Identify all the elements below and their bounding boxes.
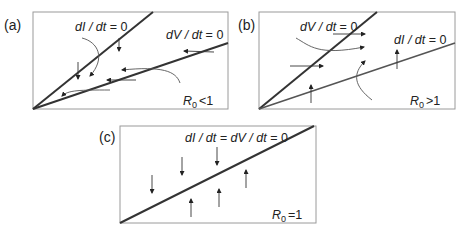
panel-a-condition: R0<1 [183,94,213,110]
phase-plane-figure: (a) dI / dt = 0 dV / dt = 0 R0<1 (b) dV … [0,0,463,239]
panel-b-label: (b) [238,17,255,33]
panel-a: (a) dI / dt = 0 dV / dt = 0 R0<1 [4,12,228,110]
panel-c: (c) dI / dt = dV / dt = 0 R0=1 [99,126,316,224]
panel-b: (b) dV / dt = 0 dI / dt = 0 R0>1 [238,12,455,110]
panel-c-label: (c) [99,129,115,145]
panel-c-condition: R0=1 [272,208,302,224]
panel-c-nullcline-label: dI / dt = dV / dt = 0 [185,131,288,145]
panel-a-label: (a) [4,17,21,33]
panel-a-nullcline-steep-label: dI / dt = 0 [75,20,128,34]
panel-b-nullcline-shallow-label: dI / dt = 0 [394,33,447,47]
panel-a-nullcline-shallow-label: dV / dt = 0 [166,28,223,42]
panel-b-nullcline-steep-label: dV / dt = 0 [300,20,357,34]
panel-b-condition: R0>1 [410,94,440,110]
